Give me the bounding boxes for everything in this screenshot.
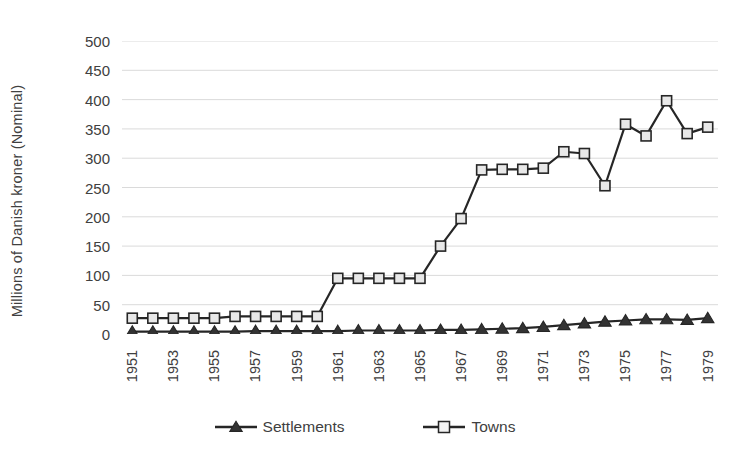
x-tick-label: 1955 <box>205 338 223 396</box>
data-point-triangle-marker <box>188 326 200 334</box>
y-tick-label: 300 <box>85 150 110 167</box>
data-point-square-marker <box>682 129 692 139</box>
gridlines <box>122 41 718 305</box>
data-point-triangle-marker <box>167 326 179 334</box>
y-tick-label: 50 <box>93 296 110 313</box>
data-point-square-marker <box>477 165 487 175</box>
data-point-triangle-marker <box>311 325 323 334</box>
data-point-square-marker <box>189 313 199 323</box>
x-tick-label: 1963 <box>370 338 388 396</box>
legend-marker-square-icon <box>422 419 466 435</box>
data-point-square-marker <box>662 96 672 106</box>
legend-label-towns: Towns <box>471 418 515 436</box>
data-point-triangle-marker <box>332 325 344 334</box>
x-tick-label: 1973 <box>575 338 593 396</box>
data-point-triangle-marker <box>393 325 405 334</box>
data-point-square-marker <box>127 313 137 323</box>
data-point-triangle-marker <box>126 326 138 334</box>
x-tick-label: 1977 <box>658 338 676 396</box>
data-point-square-marker <box>374 273 384 283</box>
data-point-square-marker <box>292 311 302 321</box>
legend-marker-triangle-icon <box>214 419 258 435</box>
data-point-square-marker <box>230 311 240 321</box>
data-point-square-marker <box>415 273 425 283</box>
data-point-square-marker <box>394 273 404 283</box>
y-tick-label: 250 <box>85 179 110 196</box>
legend-item-towns: Towns <box>422 418 515 436</box>
x-tick-label: 1971 <box>534 338 552 396</box>
y-tick-label: 350 <box>85 120 110 137</box>
data-point-triangle-marker <box>208 326 220 334</box>
x-tick-label: 1975 <box>617 338 635 396</box>
data-point-square-marker <box>703 122 713 132</box>
data-point-triangle-marker <box>373 325 385 334</box>
data-point-triangle-marker <box>290 325 302 334</box>
x-tick-label: 1961 <box>329 338 347 396</box>
x-axis-tick-labels: 1951195319551957195919611963196519671969… <box>122 338 718 400</box>
series-line <box>132 101 707 318</box>
data-point-square-marker <box>621 119 631 129</box>
legend-label-settlements: Settlements <box>263 418 345 436</box>
chart-svg <box>122 41 718 334</box>
x-tick-label: 1979 <box>699 338 717 396</box>
y-axis-tick-labels: 050100150200250300350400450500 <box>52 41 110 334</box>
x-tick-label: 1965 <box>411 338 429 396</box>
y-tick-label: 150 <box>85 238 110 255</box>
data-point-square-marker <box>333 273 343 283</box>
x-tick-label: 1953 <box>164 338 182 396</box>
data-point-square-marker <box>641 131 651 141</box>
data-point-square-marker <box>168 313 178 323</box>
chart-legend: Settlements Towns <box>0 418 729 436</box>
data-point-square-marker <box>353 273 363 283</box>
data-point-triangle-marker <box>147 326 159 334</box>
data-point-square-marker <box>600 181 610 191</box>
data-point-square-marker <box>271 311 281 321</box>
y-axis-title: Millions of Danish kroner (Nominal) <box>0 31 34 371</box>
x-tick-label: 1959 <box>288 338 306 396</box>
data-point-square-marker <box>456 214 466 224</box>
data-point-square-marker <box>312 311 322 321</box>
data-point-square-marker <box>518 164 528 174</box>
y-tick-label: 100 <box>85 267 110 284</box>
data-point-square-marker <box>148 313 158 323</box>
data-point-triangle-marker <box>352 325 364 334</box>
series-towns <box>127 96 712 323</box>
y-tick-label: 450 <box>85 62 110 79</box>
y-tick-label: 200 <box>85 208 110 225</box>
y-tick-label: 500 <box>85 33 110 50</box>
legend-item-settlements: Settlements <box>214 418 345 436</box>
chart-figure: Millions of Danish kroner (Nominal) 0501… <box>0 0 729 476</box>
x-tick-label: 1967 <box>452 338 470 396</box>
data-point-square-marker <box>436 241 446 251</box>
data-point-triangle-marker <box>270 325 282 334</box>
data-point-square-marker <box>497 164 507 174</box>
data-point-triangle-marker <box>249 325 261 334</box>
data-point-triangle-marker <box>229 326 241 334</box>
y-tick-label: 0 <box>102 326 110 343</box>
x-tick-label: 1969 <box>493 338 511 396</box>
data-point-square-marker <box>209 313 219 323</box>
y-tick-label: 400 <box>85 91 110 108</box>
data-point-square-marker <box>559 147 569 157</box>
x-tick-label: 1957 <box>247 338 265 396</box>
data-point-square-marker <box>579 149 589 159</box>
x-tick-label: 1951 <box>123 338 141 396</box>
data-point-square-marker <box>538 163 548 173</box>
plot-area <box>122 41 718 334</box>
data-point-square-marker <box>251 311 261 321</box>
